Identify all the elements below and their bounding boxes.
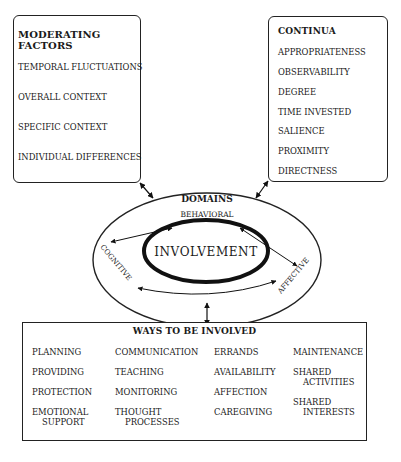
way-item: CAREGIVING (214, 407, 272, 417)
way-item: COMMUNICATION (115, 347, 198, 357)
cognitive-label: COGNITIVE (98, 243, 133, 283)
ways-title: WAYS TO BE INVOLVED (23, 326, 366, 336)
behavioral-label: BEHAVIORAL (180, 210, 233, 219)
domains-title: DOMAINS (181, 194, 233, 204)
way-item: SHAREDINTERESTS (293, 397, 355, 417)
ways-to-be-involved-box: WAYS TO BE INVOLVED PLANNING PROVIDING P… (22, 322, 367, 441)
involvement-label: INVOLVEMENT (154, 245, 258, 259)
way-item: THOUGHTPROCESSES (115, 407, 180, 427)
way-item: TEACHING (115, 367, 164, 377)
way-item: AVAILABILITY (214, 367, 276, 377)
way-item: AFFECTION (214, 387, 267, 397)
affective-label: AFFECTIVE (275, 256, 311, 296)
way-item: EMOTIONALSUPPORT (32, 407, 88, 427)
way-item: PLANNING (32, 347, 81, 357)
way-item: MONITORING (115, 387, 177, 397)
way-item: PROVIDING (32, 367, 84, 377)
way-item: PROTECTION (32, 387, 92, 397)
moderating-connector-arrow (140, 183, 153, 198)
way-item: MAINTENANCE (293, 347, 363, 357)
way-item: ERRANDS (214, 347, 259, 357)
way-item: SHAREDACTIVITIES (293, 367, 354, 387)
continua-connector-arrow (256, 181, 268, 198)
behavioral-cognitive-arrow (111, 228, 172, 242)
